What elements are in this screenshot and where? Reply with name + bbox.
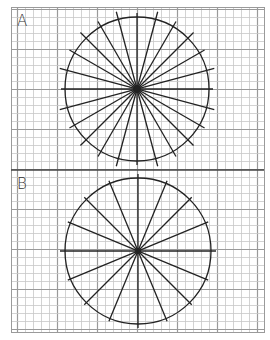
center-point: [135, 248, 141, 254]
center-point: [133, 85, 141, 93]
panel-b-circle: [60, 174, 216, 328]
panel-a-label: A: [17, 14, 27, 29]
panel-a-circle: [60, 12, 215, 167]
grid-diagram: [0, 0, 270, 340]
panel-b-label: B: [17, 177, 27, 192]
